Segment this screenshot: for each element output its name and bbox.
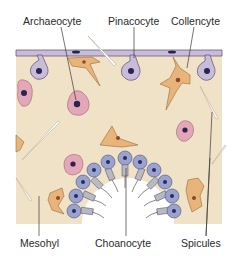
label-archaeocyte: Archaeocyte — [23, 16, 81, 27]
label-collencyte: Collencyte — [171, 16, 220, 27]
archaeocyte-cell — [18, 80, 33, 107]
label-pinacocyte: Pinacocyte — [108, 16, 159, 27]
pinacocyte-nucleus-flat — [168, 51, 176, 54]
archaeocyte-cell — [64, 154, 83, 175]
pinacocyte-nucleus-flat — [72, 51, 80, 54]
label-spicules: Spicules — [181, 238, 221, 249]
label-mesohyl: Mesohyl — [20, 238, 59, 249]
sponge-diagram — [0, 0, 235, 264]
label-choanocyte: Choanocyte — [95, 238, 151, 249]
pinacocyte-layer — [16, 50, 222, 56]
